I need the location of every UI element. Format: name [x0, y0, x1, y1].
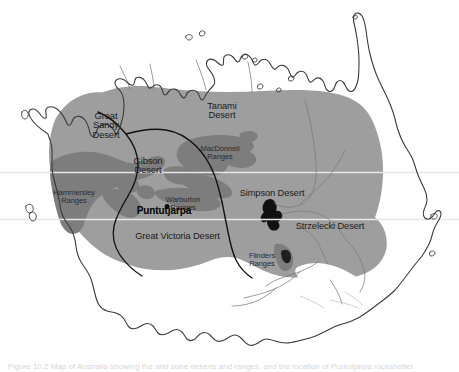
map-canvas: [0, 0, 459, 372]
figure-caption: Figure 10.2 Map of Australia showing the…: [8, 362, 454, 371]
puntutjarpa-site-marker: [165, 204, 170, 209]
australia-arid-zone-map: Great Sandy Desert Tanami Desert Gibson …: [0, 0, 459, 372]
